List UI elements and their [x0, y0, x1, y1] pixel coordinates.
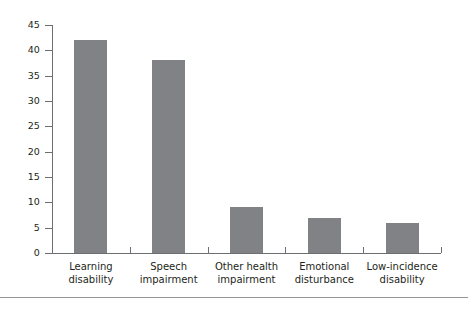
y-axis-tick	[45, 25, 52, 26]
y-axis-tick	[45, 253, 52, 254]
bar	[308, 218, 341, 253]
x-axis-category-label: Low-incidencedisability	[363, 261, 441, 286]
y-axis-tick-label: 20	[14, 147, 40, 157]
x-axis-tick	[441, 247, 442, 253]
x-axis-category-label: Speechimpairment	[130, 261, 208, 286]
x-axis-tick	[208, 247, 209, 253]
y-axis-tick-label: 25	[14, 121, 40, 131]
category-label-line-1: Learning	[52, 261, 130, 274]
y-axis-tick-label: 30	[14, 96, 40, 106]
bar	[386, 223, 419, 253]
y-axis-tick-label: 45	[14, 20, 40, 30]
y-axis-tick-label: 0	[14, 248, 40, 258]
x-axis-tick	[363, 247, 364, 253]
category-label-line-2: disturbance	[285, 274, 363, 287]
y-axis-tick-label: 15	[14, 172, 40, 182]
category-label-line-2: impairment	[130, 274, 208, 287]
category-label-line-2: disability	[52, 274, 130, 287]
category-label-line-1: Low-incidence	[363, 261, 441, 274]
bar	[74, 40, 107, 253]
bar-chart-figure: 051015202530354045 LearningdisabilitySpe…	[0, 0, 468, 312]
y-axis-tick-label: 5	[14, 223, 40, 233]
category-label-line-1: Other health	[208, 261, 286, 274]
y-axis-tick	[45, 202, 52, 203]
y-axis-tick	[45, 177, 52, 178]
bottom-divider-rule	[0, 297, 468, 298]
y-axis-tick-label: 35	[14, 71, 40, 81]
y-axis-line	[52, 25, 53, 254]
plot-area: 051015202530354045 LearningdisabilitySpe…	[0, 0, 468, 312]
category-label-line-1: Emotional	[285, 261, 363, 274]
y-axis-tick	[45, 126, 52, 127]
y-axis-tick	[45, 76, 52, 77]
x-axis-category-label: Learningdisability	[52, 261, 130, 286]
category-label-line-1: Speech	[130, 261, 208, 274]
x-axis-tick	[285, 247, 286, 253]
x-axis-category-label: Other healthimpairment	[208, 261, 286, 286]
x-axis-tick	[130, 247, 131, 253]
y-axis-tick	[45, 152, 52, 153]
x-axis-category-label: Emotionaldisturbance	[285, 261, 363, 286]
bar	[230, 207, 263, 253]
y-axis-tick	[45, 50, 52, 51]
x-axis-line	[52, 253, 441, 254]
category-label-line-2: disability	[363, 274, 441, 287]
bar	[152, 60, 185, 253]
y-axis-tick	[45, 228, 52, 229]
category-label-line-2: impairment	[208, 274, 286, 287]
y-axis-tick-label: 10	[14, 197, 40, 207]
y-axis-tick-label: 40	[14, 45, 40, 55]
y-axis-tick	[45, 101, 52, 102]
